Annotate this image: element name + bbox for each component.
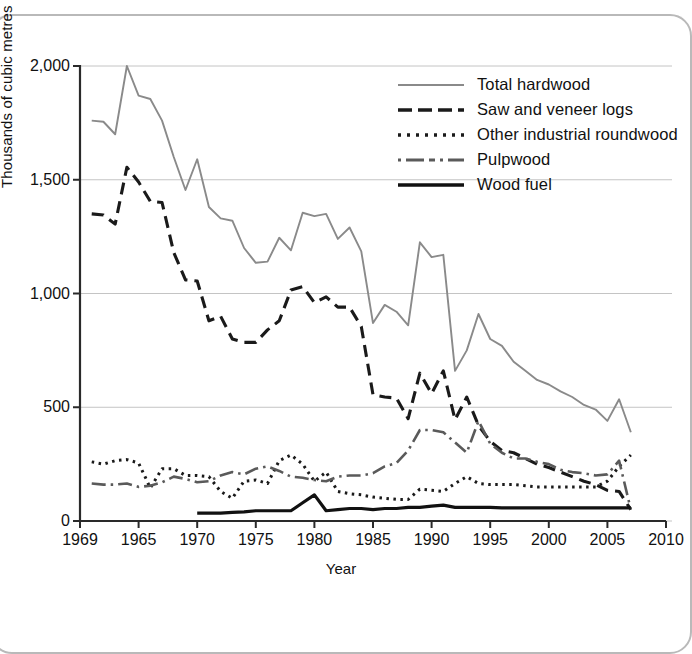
legend-swatch-icon bbox=[398, 128, 466, 142]
legend-item-wood-fuel: Wood fuel bbox=[398, 172, 678, 197]
legend-swatch-icon bbox=[398, 153, 466, 167]
x-axis-tick-labels: 1969196519701975198019851990199520002005… bbox=[0, 531, 682, 557]
y-tick-label-0: 0 bbox=[12, 512, 70, 530]
x-tick-label-2005: 2005 bbox=[590, 531, 626, 549]
x-tick-label-1980: 1980 bbox=[297, 531, 333, 549]
y-tick-label-1500: 1,500 bbox=[12, 171, 70, 189]
x-axis-title: Year bbox=[0, 560, 682, 577]
legend-label: Saw and veneer logs bbox=[477, 100, 633, 119]
legend-item-pulpwood: Pulpwood bbox=[398, 147, 678, 172]
legend-label: Other industrial roundwood bbox=[477, 125, 678, 144]
y-tick-label-1000: 1,000 bbox=[12, 285, 70, 303]
legend-swatch-icon bbox=[398, 103, 466, 117]
legend-label: Total hardwood bbox=[477, 75, 590, 94]
series-line-wood-fuel bbox=[197, 495, 631, 513]
y-tick-label-2000: 2,000 bbox=[12, 57, 70, 75]
legend-swatch-icon bbox=[398, 78, 466, 92]
x-tick-label-1965: 1965 bbox=[121, 531, 157, 549]
legend-label: Wood fuel bbox=[477, 175, 552, 194]
legend-swatch-icon bbox=[398, 178, 466, 192]
x-tick-label-1985: 1985 bbox=[355, 531, 391, 549]
legend-item-other-industrial-roundwood: Other industrial roundwood bbox=[398, 122, 678, 147]
legend-item-total-hardwood: Total hardwood bbox=[398, 72, 678, 97]
legend-item-saw-and-veneer-logs: Saw and veneer logs bbox=[398, 97, 678, 122]
chart-legend: Total hardwoodSaw and veneer logsOther i… bbox=[398, 72, 678, 197]
series-line-saw-and-veneer-logs bbox=[92, 167, 631, 509]
x-tick-label-1995: 1995 bbox=[472, 531, 508, 549]
x-tick-label-2010: 2010 bbox=[648, 531, 684, 549]
x-tick-label-1970: 1970 bbox=[179, 531, 215, 549]
y-tick-label-500: 500 bbox=[12, 398, 70, 416]
y-axis-tick-labels: 05001,0001,5002,000 bbox=[12, 0, 70, 574]
x-tick-label-1990: 1990 bbox=[414, 531, 450, 549]
series-line-pulpwood bbox=[92, 421, 631, 510]
x-tick-label-2000: 2000 bbox=[531, 531, 567, 549]
legend-label: Pulpwood bbox=[477, 150, 550, 169]
x-tick-label-1975: 1975 bbox=[238, 531, 274, 549]
x-tick-label-1960: 1969 bbox=[62, 531, 98, 549]
